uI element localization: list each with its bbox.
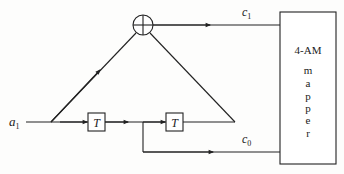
output-label-c0: c0	[242, 132, 251, 148]
encoder-diagram: a1 T T c1 c0 4-AM m a p p e r	[0, 0, 344, 174]
mapper-letter: a	[306, 77, 311, 89]
mapper-letter: p	[305, 102, 311, 114]
mapper-letter: r	[306, 127, 310, 139]
output-label-c1: c1	[242, 5, 251, 21]
input-label: a1	[9, 114, 20, 131]
mapper-letter: m	[304, 64, 313, 76]
mapper-letter: e	[306, 114, 311, 126]
mapper-letter: p	[305, 90, 311, 102]
feedback-to-adder	[150, 33, 235, 122]
mapper-title: 4-AM	[295, 44, 322, 56]
